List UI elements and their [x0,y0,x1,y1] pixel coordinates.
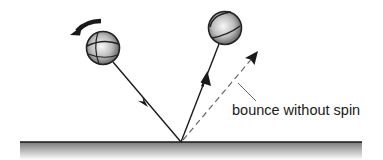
incoming-ball [87,32,120,65]
outgoing-ball [209,12,242,45]
no-spin-arrowhead [245,51,258,65]
no-spin-dashed-path [183,56,254,140]
bounce-diagram: bounce without spin [0,0,383,160]
label-leader-line [238,83,256,101]
outgoing-spin-path-line [181,44,219,142]
incoming-path-line [113,62,181,142]
outgoing-direction-arrowhead [201,71,212,87]
no-spin-label: bounce without spin [232,102,360,118]
ground-shading [20,142,362,160]
